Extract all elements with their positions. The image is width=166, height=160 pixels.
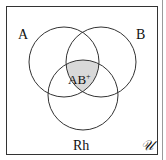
set-b-label: B: [136, 27, 145, 42]
ab-label-sup: +: [86, 72, 91, 81]
venn-diagram: A B Rh AB+ 𝒰: [0, 0, 166, 160]
set-rh-label: Rh: [73, 138, 89, 153]
set-a-label: A: [18, 27, 29, 42]
ab-label-main: AB: [68, 72, 86, 87]
